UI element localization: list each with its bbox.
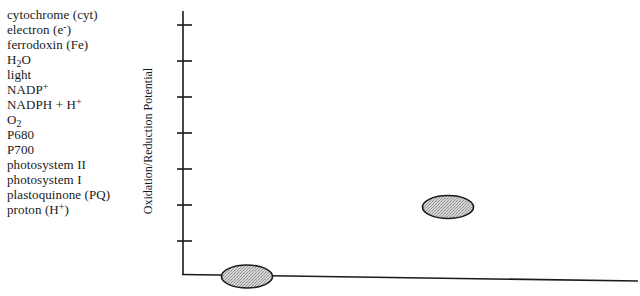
potential-diagram xyxy=(0,0,640,296)
blank-ellipse-lower xyxy=(222,265,273,288)
y-axis-ticks xyxy=(177,25,192,241)
blank-ellipse-upper xyxy=(423,196,474,219)
